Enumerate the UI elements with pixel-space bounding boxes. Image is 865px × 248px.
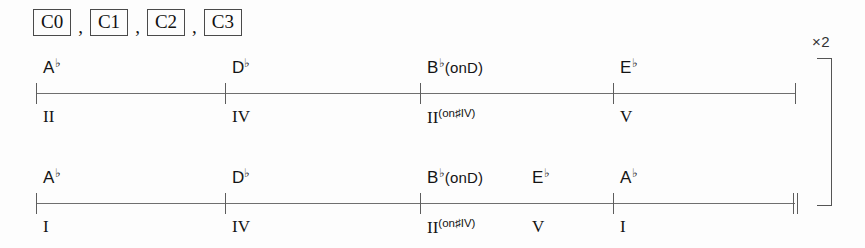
roman-numeral[interactable]: IV — [232, 218, 250, 235]
chord-root: A — [43, 58, 55, 77]
chord-accidental-flat-icon: ♭ — [55, 166, 61, 180]
chord-symbol[interactable]: E♭ — [620, 57, 638, 76]
roman-numeral[interactable]: I — [43, 218, 49, 235]
chord-accidental-flat-icon: ♭ — [55, 56, 61, 70]
beat-tick — [225, 83, 226, 104]
roman-numeral[interactable]: IV — [232, 108, 250, 125]
chord-symbol[interactable]: A♭ — [43, 167, 61, 186]
roman-numeral[interactable]: V — [620, 108, 632, 125]
roman-numeral-degree: II — [427, 108, 438, 127]
chord-accidental-flat-icon: ♭ — [632, 166, 638, 180]
beat-tick — [613, 83, 614, 104]
end-barline — [795, 83, 796, 104]
repeat-count-label: ×2 — [812, 34, 830, 49]
roman-numeral-bass-superscript: (on♯IV) — [438, 217, 475, 229]
chord-root: E — [532, 168, 544, 187]
roman-numeral-degree: I — [43, 217, 49, 236]
chord-root: D — [232, 168, 244, 187]
chord-bass-suffix: (onD) — [445, 169, 484, 186]
timeline-line — [36, 93, 795, 94]
section-label-list: C0,C1,C2,C3 — [33, 9, 242, 35]
section-label-c3[interactable]: C3 — [204, 9, 242, 36]
chord-symbol[interactable]: B♭(onD) — [427, 167, 483, 186]
beat-tick — [420, 83, 421, 104]
chord-symbol[interactable]: D♭ — [232, 167, 251, 186]
section-label-c2[interactable]: C2 — [147, 9, 185, 36]
beat-tick — [225, 193, 226, 214]
chord-root: B — [427, 58, 439, 77]
roman-numeral[interactable]: II(on♯IV) — [427, 108, 475, 126]
section-label-separator: , — [185, 16, 204, 38]
chord-bass-suffix: (onD) — [445, 59, 484, 76]
chord-root: E — [620, 58, 632, 77]
roman-numeral-degree: II — [43, 107, 54, 126]
timeline-line — [36, 203, 795, 204]
section-label-c0[interactable]: C0 — [33, 9, 71, 36]
final-double-barline — [793, 193, 794, 214]
roman-numeral[interactable]: I — [620, 218, 626, 235]
progression-row-2: A♭ID♭IVB♭(onD)II(on♯IV)E♭VA♭I — [0, 158, 865, 248]
chord-root: A — [43, 168, 55, 187]
section-label-separator: , — [71, 16, 90, 38]
chord-accidental-flat-icon: ♭ — [244, 56, 250, 70]
chord-accidental-flat-icon: ♭ — [632, 56, 638, 70]
beat-tick — [36, 193, 37, 214]
roman-numeral-degree: IV — [232, 107, 250, 126]
chord-symbol[interactable]: A♭ — [43, 57, 61, 76]
chord-accidental-flat-icon: ♭ — [244, 166, 250, 180]
roman-numeral[interactable]: II — [43, 108, 54, 125]
beat-tick — [36, 83, 37, 104]
chord-root: A — [620, 168, 632, 187]
roman-numeral-degree: V — [620, 107, 632, 126]
chord-root: D — [232, 58, 244, 77]
roman-numeral-degree: I — [620, 217, 626, 236]
chord-root: B — [427, 168, 439, 187]
roman-numeral-degree: IV — [232, 217, 250, 236]
roman-numeral[interactable]: V — [532, 218, 544, 235]
roman-numeral-bass-superscript: (on♯IV) — [438, 107, 475, 119]
repeat-bracket — [817, 58, 832, 206]
roman-numeral-degree: V — [532, 217, 544, 236]
chord-symbol[interactable]: A♭ — [620, 167, 638, 186]
roman-numeral-degree: II — [427, 218, 438, 237]
chord-accidental-flat-icon: ♭ — [544, 166, 550, 180]
roman-numeral[interactable]: II(on♯IV) — [427, 218, 475, 236]
beat-tick — [613, 193, 614, 214]
chord-symbol[interactable]: E♭ — [532, 167, 550, 186]
progression-row-1: A♭IID♭IVB♭(onD)II(on♯IV)E♭V — [0, 48, 865, 138]
chord-symbol[interactable]: B♭(onD) — [427, 57, 483, 76]
final-double-barline — [797, 193, 798, 214]
chord-symbol[interactable]: D♭ — [232, 57, 251, 76]
section-label-separator: , — [128, 16, 147, 38]
chord-chart-diagram: C0,C1,C2,C3 A♭IID♭IVB♭(onD)II(on♯IV)E♭V … — [0, 0, 865, 248]
section-label-c1[interactable]: C1 — [90, 9, 128, 36]
beat-tick — [420, 193, 421, 214]
